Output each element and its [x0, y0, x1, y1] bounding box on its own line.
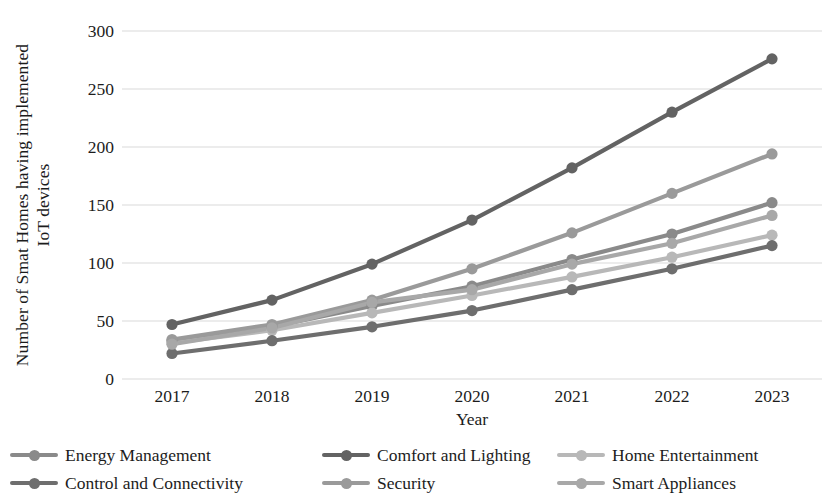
- data-point-marker: [666, 238, 677, 249]
- legend-item-label: Comfort and Lighting: [377, 445, 531, 466]
- legend-item[interactable]: Control and Connectivity: [10, 469, 322, 497]
- legend-swatch: [557, 447, 605, 463]
- x-axis-tick-labels: 2017201820192020202120222023: [122, 386, 822, 410]
- data-point-marker: [666, 263, 677, 274]
- data-point-marker: [566, 162, 577, 173]
- y-axis-title-line1: Number of Smat Homes having implemented: [12, 44, 33, 366]
- x-axis-tick-label: 2021: [532, 386, 612, 407]
- data-point-marker: [666, 252, 677, 263]
- legend-item-label: Energy Management: [65, 445, 211, 466]
- data-point-marker: [366, 297, 377, 308]
- data-point-marker: [466, 263, 477, 274]
- y-axis-tick-label: 0: [60, 369, 114, 390]
- legend-swatch: [10, 447, 58, 463]
- legend-swatch: [322, 447, 370, 463]
- data-point-marker: [666, 107, 677, 118]
- data-point-marker: [766, 210, 777, 221]
- y-axis-tick-label: 150: [60, 195, 114, 216]
- legend-marker-icon: [29, 478, 40, 489]
- data-point-marker: [566, 259, 577, 270]
- legend-item[interactable]: Home Entertainment: [557, 441, 827, 469]
- data-point-marker: [366, 259, 377, 270]
- plot-area: [122, 22, 822, 380]
- legend-item[interactable]: Energy Management: [10, 441, 322, 469]
- data-point-marker: [466, 305, 477, 316]
- x-axis-title: Year: [122, 409, 822, 430]
- y-axis-title-line2: IoT devices: [33, 164, 54, 247]
- data-point-marker: [766, 240, 777, 251]
- data-point-marker: [166, 319, 177, 330]
- data-point-marker: [166, 339, 177, 350]
- y-axis-tick-label: 300: [60, 21, 114, 42]
- plot-canvas: [122, 22, 822, 380]
- x-axis-tick-label: 2019: [332, 386, 412, 407]
- y-axis-title: Number of Smat Homes having implemented …: [13, 20, 53, 390]
- gridlines: [122, 31, 822, 379]
- x-axis-tick-label: 2020: [432, 386, 512, 407]
- data-point-marker: [366, 321, 377, 332]
- series-markers: [166, 53, 777, 359]
- legend-item[interactable]: Smart Appliances: [557, 469, 827, 497]
- data-point-marker: [766, 148, 777, 159]
- x-axis-tick-label: 2023: [732, 386, 812, 407]
- data-point-marker: [366, 307, 377, 318]
- legend-item[interactable]: Security: [322, 469, 557, 497]
- legend-swatch: [322, 475, 370, 491]
- legend-marker-icon: [341, 478, 352, 489]
- data-point-marker: [766, 53, 777, 64]
- legend-marker-icon: [29, 450, 40, 461]
- legend-item[interactable]: Comfort and Lighting: [322, 441, 557, 469]
- legend-swatch: [10, 475, 58, 491]
- y-axis-tick-label: 200: [60, 137, 114, 158]
- data-point-marker: [566, 284, 577, 295]
- legend-swatch: [557, 475, 605, 491]
- data-point-marker: [766, 230, 777, 241]
- x-axis-tick-label: 2017: [132, 386, 212, 407]
- x-axis-tick-label: 2022: [632, 386, 712, 407]
- data-point-marker: [266, 322, 277, 333]
- y-axis-tick-labels: 050100150200250300: [60, 0, 114, 420]
- legend-item-label: Smart Appliances: [612, 473, 736, 494]
- data-point-marker: [666, 188, 677, 199]
- data-point-marker: [566, 271, 577, 282]
- legend-item-label: Home Entertainment: [612, 445, 758, 466]
- data-point-marker: [466, 214, 477, 225]
- data-point-marker: [466, 284, 477, 295]
- y-axis-tick-label: 50: [60, 311, 114, 332]
- data-point-marker: [766, 197, 777, 208]
- y-axis-tick-label: 250: [60, 79, 114, 100]
- data-point-marker: [566, 227, 577, 238]
- data-point-marker: [266, 295, 277, 306]
- legend-marker-icon: [576, 478, 587, 489]
- legend-marker-icon: [341, 450, 352, 461]
- legend-item-label: Security: [377, 473, 435, 494]
- x-axis-tick-label: 2018: [232, 386, 312, 407]
- y-axis-tick-label: 100: [60, 253, 114, 274]
- legend-item-label: Control and Connectivity: [65, 473, 243, 494]
- chart-legend: Energy ManagementControl and Connectivit…: [10, 441, 827, 497]
- data-point-marker: [266, 335, 277, 346]
- legend-marker-icon: [576, 450, 587, 461]
- chart-figure: Number of Smat Homes having implemented …: [0, 0, 837, 502]
